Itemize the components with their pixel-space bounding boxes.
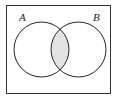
set-b-label: B xyxy=(93,11,100,23)
venn-diagram: A B xyxy=(0,0,115,101)
set-a-label: A xyxy=(18,11,26,23)
